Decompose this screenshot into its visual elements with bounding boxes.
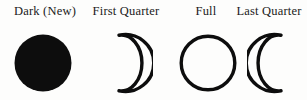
phase-icon-last-quarter [247, 32, 297, 94]
phase-icon-full [177, 32, 239, 94]
phase-label-last-quarter: Last Quarter [232, 4, 306, 19]
phase-icon-dark-new [12, 32, 74, 94]
last-quarter-crescent-outline-icon [247, 32, 297, 94]
new-moon-filled-circle-icon [12, 32, 74, 94]
moon-phases-figure: Dark (New) First Quarter Full Last Quart… [0, 0, 307, 100]
phase-label-full: Full [178, 4, 234, 19]
phase-label-first-quarter: First Quarter [86, 4, 166, 19]
full-moon-circle-outline-icon [177, 32, 239, 94]
phase-label-dark-new: Dark (New) [6, 4, 84, 19]
first-quarter-crescent-outline-icon [103, 32, 153, 94]
phase-icon-first-quarter [103, 32, 153, 94]
